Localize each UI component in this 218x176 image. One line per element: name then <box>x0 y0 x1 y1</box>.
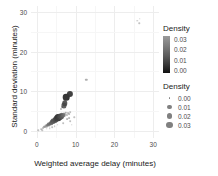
gridline-y-major <box>31 91 159 92</box>
gridline-y-major <box>31 52 159 53</box>
plot-panel <box>31 6 159 138</box>
data-point <box>54 125 56 127</box>
size-legend-label: 0.03 <box>178 122 191 129</box>
size-legend-label: 0.02 <box>178 113 191 120</box>
colorbar-tick-label: 0.01 <box>174 56 187 63</box>
data-point <box>67 91 73 97</box>
data-point <box>73 117 74 118</box>
data-point <box>138 23 139 24</box>
scatter-plot-figure: 0102030 0102030 Weighted average delay (… <box>0 0 218 176</box>
data-point <box>139 18 140 19</box>
data-point <box>46 128 47 129</box>
colorbar-tick-label: 0.00 <box>174 67 187 74</box>
size-legend-row: 0.03 <box>163 121 218 129</box>
size-legend-rows: 0.000.010.020.03 <box>163 94 218 129</box>
size-legend: Density 0.000.010.020.03 <box>163 82 218 129</box>
gridline-y-major <box>31 131 159 132</box>
size-legend-row: 0.02 <box>163 112 218 120</box>
data-point <box>137 20 138 21</box>
data-point <box>52 126 54 128</box>
legend-group: Density 0.030.020.010.00 Density 0.000.0… <box>163 24 218 130</box>
size-legend-label: 0.00 <box>178 95 191 102</box>
x-tick-label: 20 <box>111 141 118 148</box>
x-tick-label: 10 <box>72 141 79 148</box>
size-legend-dot <box>163 122 176 129</box>
colorbar-tick-label: 0.03 <box>174 36 187 43</box>
data-point <box>68 113 70 115</box>
data-point <box>62 122 64 124</box>
data-point <box>49 128 50 129</box>
size-legend-dot <box>163 105 176 109</box>
colorbar-tick-labels: 0.030.020.010.00 <box>174 36 198 73</box>
color-legend-title: Density <box>163 24 218 33</box>
data-point <box>71 124 72 125</box>
size-legend-row: 0.00 <box>163 94 218 102</box>
gridline-y-minor <box>31 111 159 112</box>
gridline-y-major <box>31 12 159 13</box>
size-legend-label: 0.01 <box>178 104 191 111</box>
size-legend-dot <box>163 97 176 99</box>
gridline-y-minor <box>31 32 159 33</box>
data-point <box>57 124 59 126</box>
size-legend-dot <box>163 113 176 119</box>
data-point <box>68 117 70 119</box>
data-point <box>62 100 68 106</box>
data-point <box>69 120 71 122</box>
density-colorbar <box>163 36 170 73</box>
data-point <box>69 111 71 113</box>
x-tick-label: 30 <box>150 141 157 148</box>
colorbar-tick-label: 0.02 <box>174 46 187 53</box>
size-legend-row: 0.01 <box>163 103 218 111</box>
x-axis-title: Weighted average delay (minutes) <box>31 159 159 168</box>
y-axis-title: Standard deviation (minutes) <box>10 11 19 143</box>
x-tick-label: 0 <box>35 141 39 148</box>
size-legend-title: Density <box>163 82 218 91</box>
gridline-y-minor <box>31 71 159 72</box>
data-point <box>85 79 87 81</box>
color-legend: Density 0.030.020.010.00 <box>163 24 218 73</box>
